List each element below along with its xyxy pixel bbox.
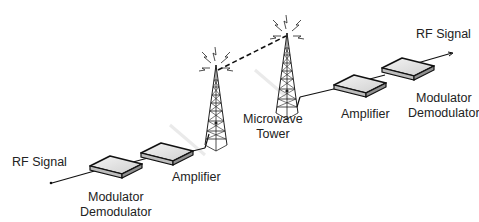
modulator-right-line1: Modulator [408, 91, 479, 106]
microwave-tower-line2: Tower [243, 127, 303, 142]
modulator-demodulator-left-label: Modulator Demodulator [80, 190, 152, 220]
modulator-right-line2: Demodulator [408, 106, 479, 121]
microwave-tower-line1: Microwave [243, 112, 303, 127]
modulator-left-line2: Demodulator [80, 205, 152, 220]
amplifier-right-label: Amplifier [341, 107, 390, 122]
rf-signal-left-label: RF Signal [12, 155, 67, 170]
modulator-demodulator-left [90, 156, 142, 178]
modulator-left-line1: Modulator [80, 190, 152, 205]
rf-signal-right-label: RF Signal [416, 27, 471, 42]
modulator-demodulator-right [382, 58, 434, 80]
amplifier-left-label: Amplifier [172, 170, 221, 185]
modulator-demodulator-right-label: Modulator Demodulator [408, 91, 479, 121]
amplifier-left [141, 143, 193, 165]
microwave-tower-right [270, 15, 304, 119]
microwave-tower-label: Microwave Tower [243, 112, 303, 142]
microwave-link-diagram: RF Signal Modulator Demodulator Amplifie… [0, 0, 479, 222]
microwave-tower-left [199, 47, 233, 151]
amplifier-right [334, 75, 386, 97]
